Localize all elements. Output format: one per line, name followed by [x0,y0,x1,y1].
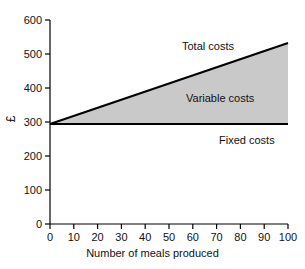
x-tick-label-80: 80 [234,232,246,243]
x-axis-title: Number of meals produced [0,247,305,259]
x-tick-label-0: 0 [47,232,53,243]
total-costs-label: Total costs [182,40,234,52]
x-tick-label-20: 20 [91,232,103,243]
x-tick-label-100: 100 [279,232,297,243]
y-tick-label-100: 100 [8,185,42,196]
x-tick-label-10: 10 [68,232,80,243]
y-tick-label-200: 200 [8,151,42,162]
y-tick-label-0: 0 [8,219,42,230]
y-axis-title: £ [4,110,18,128]
x-axis-ticks [50,224,288,229]
variable-costs-label: Variable costs [186,92,254,104]
x-tick-label-90: 90 [258,232,270,243]
fixed-costs-label: Fixed costs [219,134,275,146]
y-tick-label-500: 500 [8,49,42,60]
y-axis-ticks [45,20,50,224]
x-tick-label-60: 60 [187,232,199,243]
x-tick-label-40: 40 [139,232,151,243]
x-tick-label-70: 70 [210,232,222,243]
cost-behaviour-chart: 600 500 400 300 200 100 0 0 10 20 30 40 … [0,0,305,269]
y-tick-label-400: 400 [8,83,42,94]
x-tick-label-30: 30 [115,232,127,243]
y-tick-label-600: 600 [8,15,42,26]
x-tick-label-50: 50 [163,232,175,243]
